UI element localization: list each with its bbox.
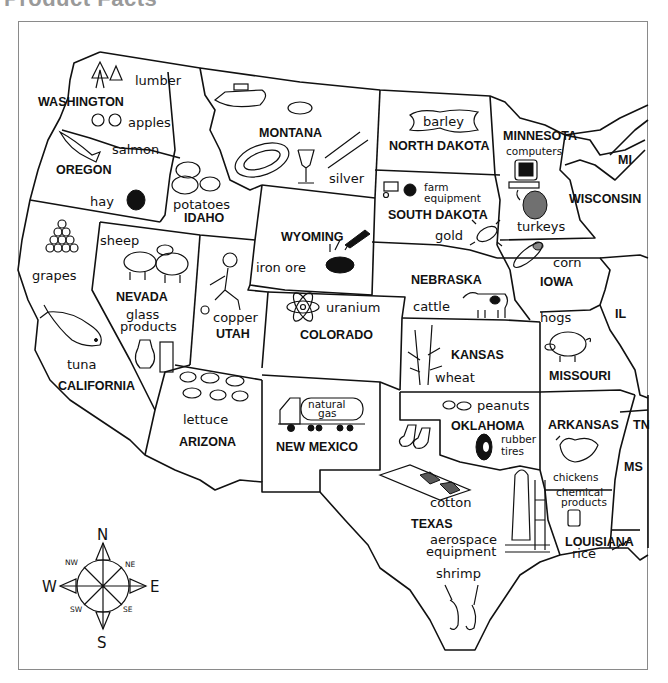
product-rubber: rubber: [501, 433, 537, 445]
product-chemical-products: products: [561, 496, 607, 508]
hog-icon: [545, 332, 591, 362]
product-potatoes: potatoes: [173, 197, 230, 212]
product-silver: silver: [329, 171, 365, 186]
compass-w: W: [42, 578, 57, 596]
compass-ne: NE: [125, 560, 136, 569]
product-cattle: cattle: [413, 299, 450, 314]
state-arizona: ARIZONA: [179, 435, 236, 449]
state-tn: TN: [633, 418, 650, 432]
computer-icon: [509, 160, 539, 188]
state-colorado: COLORADO: [300, 328, 373, 342]
product-salmon: salmon: [112, 142, 159, 157]
compass-sw: SW: [70, 605, 83, 614]
product-computers: computers: [506, 145, 562, 157]
product-barley: barley: [423, 114, 464, 129]
grapes-icon: [46, 220, 78, 252]
product-cotton: cotton: [430, 495, 472, 510]
compass-nw: NW: [65, 558, 79, 567]
compass-e: E: [150, 578, 159, 596]
sheep-icon: [124, 245, 188, 283]
state-nevada: NEVADA: [116, 290, 168, 304]
silver-teapot-icon: [215, 84, 266, 107]
product-corn: corn: [553, 255, 581, 270]
state-california: CALIFORNIA: [58, 379, 135, 393]
product-gas: gas: [318, 407, 337, 419]
product-aerospace-equipment: equipment: [426, 544, 496, 559]
product-sheep: sheep: [100, 233, 139, 248]
product-lumber: lumber: [135, 73, 182, 88]
lumber-icon: [92, 62, 122, 88]
product-gold: gold: [435, 228, 463, 243]
state-texas: TEXAS: [411, 517, 453, 531]
state-south-dakota: SOUTH DAKOTA: [388, 208, 488, 222]
salmon-icon: [60, 132, 100, 162]
silver-ring-icon: [288, 102, 312, 114]
product-chickens: chickens: [553, 471, 598, 483]
state-iowa: IOWA: [540, 275, 573, 289]
state-ms: MS: [624, 460, 643, 474]
product-wheat: wheat: [435, 370, 475, 385]
chemical-barrel-icon: [568, 510, 580, 526]
state-missouri: MISSOURI: [549, 369, 611, 383]
compass-s: S: [97, 634, 107, 652]
compass-n: N: [97, 526, 108, 544]
uranium-atom-icon: [287, 290, 319, 324]
product-grapes: grapes: [32, 268, 77, 283]
state-north-dakota: NORTH DAKOTA: [389, 139, 489, 153]
socks-icon: [399, 425, 430, 448]
state-utah: UTAH: [216, 327, 250, 341]
product-peanuts: peanuts: [477, 398, 530, 413]
state-idaho: IDAHO: [184, 211, 225, 225]
state-washington: WASHINGTON: [38, 95, 124, 109]
silver-goblet-icon: [298, 150, 314, 183]
cattle-icon: [463, 293, 508, 318]
product-uranium: uranium: [326, 300, 380, 315]
peanuts-icon: [443, 401, 471, 410]
state-kansas: KANSAS: [451, 348, 504, 362]
tractor-icon: [384, 182, 417, 198]
us-product-map: WASHINGTON OREGON IDAHO MONTANA NORTH DA…: [0, 0, 668, 683]
apples-icon: [92, 114, 121, 126]
compass-se: SE: [123, 605, 133, 614]
product-glass-products: products: [120, 319, 177, 334]
product-equipment: equipment: [424, 192, 481, 204]
copper-miner-icon: [201, 253, 240, 314]
product-tires: tires: [501, 445, 524, 457]
state-new-mexico: NEW MEXICO: [276, 440, 358, 454]
glass-products-icon: [135, 340, 173, 372]
product-apples: apples: [128, 115, 171, 130]
state-oklahoma: OKLAHOMA: [451, 419, 525, 433]
product-copper: copper: [213, 310, 259, 325]
product-iron-ore: iron ore: [256, 260, 306, 275]
corn-icon: [510, 239, 545, 271]
state-minnesota: MINNESOTA: [503, 129, 577, 143]
silver-plate-icon: [231, 136, 294, 183]
state-oregon: OREGON: [56, 163, 112, 177]
product-hay: hay: [90, 194, 114, 209]
state-nebraska: NEBRASKA: [411, 273, 482, 287]
state-wisconsin: WISCONSIN: [569, 192, 641, 206]
chicken-icon: [556, 436, 598, 462]
silver-cutlery-icon: [325, 132, 368, 168]
state-mi: MI: [618, 153, 632, 167]
tuna-icon: [40, 305, 101, 346]
lettuce-icon: [180, 372, 248, 401]
product-tuna: tuna: [67, 357, 97, 372]
compass-rose: N S E W NE NW SE SW: [42, 526, 159, 652]
state-wyoming: WYOMING: [281, 230, 344, 244]
product-hogs: hogs: [540, 310, 571, 325]
product-shrimp: shrimp: [436, 566, 481, 581]
hay-icon: [127, 190, 145, 210]
iron-ore-pour-icon: [345, 230, 370, 248]
shrimp-icon: [445, 585, 478, 630]
state-il: IL: [615, 307, 626, 321]
product-labels: lumber apples salmon hay potatoes silver…: [32, 73, 607, 581]
product-turkeys: turkeys: [517, 219, 565, 234]
product-lettuce: lettuce: [183, 412, 228, 427]
state-arkansas: ARKANSAS: [548, 418, 619, 432]
potatoes-icon: [172, 162, 220, 194]
product-rice: rice: [572, 546, 596, 561]
turkey-icon: [517, 190, 547, 219]
state-montana: MONTANA: [259, 126, 322, 140]
rubber-tire-icon: [476, 434, 492, 460]
